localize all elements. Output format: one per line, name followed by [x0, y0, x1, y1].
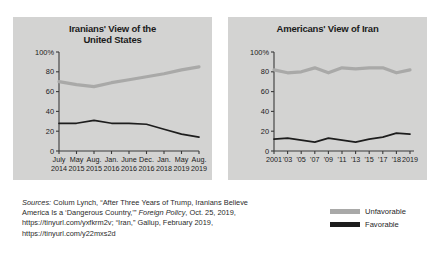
x-tick-label-year: 2019 — [174, 164, 190, 173]
x-tick-label: Aug. — [192, 155, 207, 164]
x-tick-label-year: 2019 — [191, 164, 207, 173]
y-tick-label: 20 — [261, 127, 269, 136]
sources-line-2-b: , Oct. 25, 2019, — [185, 208, 236, 217]
x-tick-label: Dec. — [139, 155, 154, 164]
x-tick-label-year: 2014 — [51, 164, 67, 173]
x-tick-label: '11 — [338, 155, 347, 164]
line-chart-right: 100%8060402002001'03'05'07'09'11'13'15'1… — [228, 17, 427, 180]
sources-publication-title: Foreign Policy — [139, 208, 186, 217]
x-tick-label: '17 — [378, 155, 387, 164]
x-tick-label: '18 — [392, 155, 401, 164]
sources-note: Sources: Colum Lynch, “After Three Years… — [22, 198, 294, 239]
x-tick-label-year: 2015 — [69, 164, 85, 173]
legend-label-unfavorable: Unfavorable — [365, 207, 406, 216]
y-tick-label: 20 — [46, 127, 54, 136]
sources-line-1: Sources: Colum Lynch, “After Three Years… — [22, 198, 294, 208]
series-line-unfavorable — [274, 68, 410, 73]
x-tick-label: '15 — [365, 155, 374, 164]
x-tick-label: Jan. — [157, 155, 171, 164]
x-tick-label-year: 2016 — [139, 164, 155, 173]
x-tick-label: '13 — [351, 155, 360, 164]
chart-panel-americans-view-of-iran: Americans' View of Iran 100%806040200200… — [228, 17, 427, 180]
legend-swatch-favorable — [330, 222, 360, 227]
x-tick-label: 2019 — [402, 155, 418, 164]
x-tick-label: Jan. — [105, 155, 119, 164]
legend-swatch-unfavorable — [330, 209, 360, 214]
y-tick-label: 80 — [46, 67, 54, 76]
y-tick-label: 60 — [46, 87, 54, 96]
y-tick-label: 60 — [261, 87, 269, 96]
series-line-favorable — [59, 120, 199, 137]
x-tick-label: '05 — [297, 155, 306, 164]
x-tick-label: 2001 — [266, 155, 282, 164]
y-tick-label: 40 — [46, 107, 54, 116]
plot-area-right: 100%8060402002001'03'05'07'09'11'13'15'1… — [228, 17, 427, 180]
sources-line-2: America Is a ‘Dangerous Country,’” Forei… — [22, 208, 294, 218]
x-tick-label: July — [53, 155, 66, 164]
y-tick-label: 80 — [261, 67, 269, 76]
sources-line-4: https://tinyurl.com/y22mxs2d — [22, 229, 294, 239]
plot-area-left: 100%806040200July2014May2015Aug.2015Jan.… — [13, 17, 212, 180]
y-tick-label: 40 — [261, 107, 269, 116]
x-tick-label-year: 2015 — [86, 164, 102, 173]
legend-item-unfavorable: Unfavorable — [330, 206, 430, 217]
y-tick-label: 100% — [250, 48, 269, 57]
x-tick-label: May — [175, 155, 189, 164]
sources-label: Sources: — [22, 198, 51, 207]
x-tick-label-year: 2016 — [121, 164, 137, 173]
x-tick-label: June — [121, 155, 137, 164]
chart-panel-iranians-view-of-us: Iranians' View of the United States 100%… — [13, 17, 212, 180]
series-line-favorable — [274, 133, 410, 142]
x-tick-label-year: 2018 — [156, 164, 172, 173]
legend-item-favorable: Favorable — [330, 219, 430, 230]
x-tick-label: '09 — [324, 155, 333, 164]
sources-line-1-rest: Colum Lynch, “After Three Years of Trump… — [51, 198, 248, 207]
legend-label-favorable: Favorable — [365, 220, 399, 229]
x-tick-label: '07 — [310, 155, 319, 164]
series-line-unfavorable — [59, 67, 199, 87]
x-tick-label: Aug. — [87, 155, 102, 164]
line-chart-left: 100%806040200July2014May2015Aug.2015Jan.… — [13, 17, 212, 180]
y-tick-label: 100% — [35, 48, 54, 57]
sources-line-2-a: America Is a ‘Dangerous Country,’” — [22, 208, 139, 217]
x-tick-label: '03 — [283, 155, 292, 164]
sources-line-3: https://tinyurl.com/yxfkrm2v; “Iran,” Ga… — [22, 218, 294, 228]
x-tick-label-year: 2016 — [104, 164, 120, 173]
x-tick-label: May — [70, 155, 84, 164]
chart-legend: Unfavorable Favorable — [330, 206, 430, 232]
